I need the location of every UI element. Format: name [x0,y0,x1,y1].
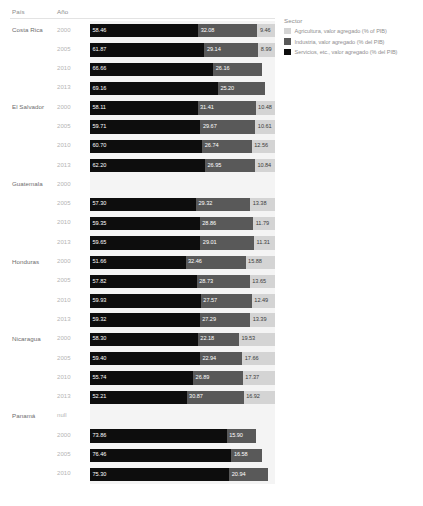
row-country-label: Honduras [12,258,39,265]
bar-segment-agricultura[interactable]: 8.99 [258,43,275,56]
bar-segment-servicios[interactable]: 66.66 [90,63,213,76]
stacked-bar[interactable]: 66.6626.16 [90,63,275,76]
stacked-bar[interactable]: 55.7426.8917.37 [90,371,275,384]
bar-segment-industria[interactable]: 29.32 [196,198,250,211]
bar-segment-agricultura[interactable]: 11.79 [253,217,275,230]
bar-segment-value-servicios: 60.70 [93,144,107,150]
bar-segment-industria[interactable]: 29.01 [200,236,254,249]
bar-segment-industria[interactable]: 26.16 [213,63,261,76]
bar-segment-industria[interactable]: 32.46 [186,256,246,269]
bar-segment-agricultura[interactable]: 13.38 [250,198,275,211]
bar-segment-value-agricultura: 10.48 [258,105,272,111]
bar-segment-servicios[interactable]: 59.32 [90,313,200,326]
bar-segment-agricultura[interactable]: 10.61 [255,120,275,133]
bar-segment-value-industria: 26.16 [216,66,230,72]
bar-segment-servicios[interactable]: 58.30 [90,333,198,346]
bar-segment-servicios[interactable]: 62.20 [90,159,205,172]
stacked-bar[interactable]: 59.6529.0111.31 [90,236,275,249]
bar-segment-servicios[interactable]: 55.74 [90,371,193,384]
chart-row: 200073.8615.90 [0,426,423,445]
bar-segment-servicios[interactable]: 52.21 [90,391,187,404]
bar-segment-servicios[interactable]: 73.86 [90,429,227,442]
bar-segment-agricultura[interactable]: 17.37 [243,371,275,384]
bar-segment-agricultura[interactable]: 13.39 [250,313,275,326]
bar-segment-agricultura[interactable]: 19.53 [239,333,275,346]
bar-segment-value-industria: 29.01 [203,240,217,246]
bar-segment-industria[interactable]: 26.89 [193,371,243,384]
bar-segment-industria[interactable]: 26.74 [202,140,251,153]
bar-segment-industria[interactable]: 32.08 [198,24,257,37]
bar-segment-industria[interactable]: 26.95 [205,159,255,172]
bar-segment-industria[interactable]: 22.18 [198,333,239,346]
bar-segment-industria[interactable]: 25.20 [218,82,265,95]
bar-segment-servicios[interactable]: 60.70 [90,140,202,153]
stacked-bar[interactable]: 57.3029.3213.38 [90,198,275,211]
bar-segment-agricultura[interactable]: 10.48 [256,101,275,114]
bar-segment-servicios[interactable]: 59.71 [90,120,200,133]
bar-segment-value-agricultura: 17.37 [245,375,259,381]
bar-segment-servicios[interactable]: 58.11 [90,101,198,114]
bar-segment-industria[interactable]: 28.86 [200,217,253,230]
stacked-bar[interactable]: 51.6632.4615.88 [90,256,275,269]
stacked-bar[interactable]: 58.3022.1819.53 [90,333,275,346]
bar-segment-servicios[interactable]: 51.66 [90,256,186,269]
stacked-bar[interactable]: 59.3528.8611.79 [90,217,275,230]
bar-segment-servicios[interactable]: 76.46 [90,449,231,462]
bar-segment-value-industria: 30.87 [189,395,203,401]
bar-segment-industria[interactable]: 28.73 [197,275,250,288]
bar-segment-value-servicios: 59.65 [93,240,107,246]
bar-segment-agricultura[interactable]: 11.31 [254,236,275,249]
bar-segment-servicios[interactable]: 59.65 [90,236,200,249]
stacked-bar[interactable]: 61.8729.148.99 [90,43,275,56]
bar-segment-value-industria: 29.14 [207,47,221,53]
bar-segment-value-servicios: 58.11 [93,105,106,111]
bar-segment-industria[interactable]: 30.87 [187,391,244,404]
stacked-bar[interactable]: 57.8228.7313.65 [90,275,275,288]
bar-segment-servicios[interactable]: 75.30 [90,468,229,481]
bar-segment-servicios[interactable]: 58.46 [90,24,198,37]
stacked-bar[interactable]: 59.9327.5712.49 [90,294,275,307]
bar-segment-agricultura[interactable]: 9.46 [257,24,275,37]
stacked-bar[interactable]: 59.4022.9417.66 [90,352,275,365]
row-year-label: 2000 [57,104,71,110]
bar-segment-industria[interactable]: 22.94 [200,352,242,365]
bar-segment-agricultura[interactable]: 16.92 [244,391,275,404]
stacked-bar[interactable]: 73.8615.90 [90,429,275,442]
bar-segment-agricultura[interactable]: 12.56 [252,140,275,153]
bar-segment-industria[interactable]: 31.41 [198,101,256,114]
bar-segment-value-servicios: 59.32 [93,317,107,323]
bar-segment-industria[interactable]: 15.90 [227,429,256,442]
bar-segment-industria[interactable]: 16.58 [231,449,262,462]
stacked-bar[interactable]: 58.1131.4110.48 [90,101,275,114]
row-band-background [90,407,275,426]
stacked-bar[interactable]: 59.7129.6710.61 [90,120,275,133]
bar-segment-servicios[interactable]: 57.30 [90,198,196,211]
stacked-bar[interactable]: 59.3227.2913.39 [90,313,275,326]
bar-segment-industria[interactable]: 29.67 [200,120,255,133]
bar-segment-industria[interactable]: 20.94 [229,468,268,481]
stacked-bar[interactable]: 76.4616.58 [90,449,275,462]
bar-segment-agricultura[interactable]: 13.65 [250,275,275,288]
stacked-bar[interactable]: 62.2026.9510.84 [90,159,275,172]
row-year-label: 2005 [57,355,71,361]
bar-segment-servicios[interactable]: 59.93 [90,294,201,307]
bar-segment-servicios[interactable]: 59.35 [90,217,200,230]
bar-segment-servicios[interactable]: 59.40 [90,352,200,365]
stacked-bar[interactable]: 58.4632.089.46 [90,24,275,37]
bar-segment-agricultura[interactable]: 12.49 [252,294,275,307]
stacked-bar[interactable]: 69.1625.20 [90,82,275,95]
bar-segment-servicios[interactable]: 57.82 [90,275,197,288]
bar-segment-agricultura[interactable]: 17.66 [242,352,275,365]
bar-segment-value-servicios: 52.21 [93,395,107,401]
bar-segment-servicios[interactable]: 61.87 [90,43,204,56]
stacked-bar[interactable]: 52.2130.8716.92 [90,391,275,404]
bar-segment-value-agricultura: 11.31 [257,240,270,246]
bar-segment-industria[interactable]: 29.14 [204,43,258,56]
stacked-bar[interactable]: 75.3020.94 [90,468,275,481]
bar-segment-industria[interactable]: 27.57 [201,294,252,307]
bar-segment-servicios[interactable]: 69.16 [90,82,218,95]
bar-segment-industria[interactable]: 27.29 [200,313,250,326]
stacked-bar[interactable]: 60.7026.7412.56 [90,140,275,153]
bar-segment-agricultura[interactable]: 15.88 [246,256,275,269]
bar-segment-agricultura[interactable]: 10.84 [255,159,275,172]
